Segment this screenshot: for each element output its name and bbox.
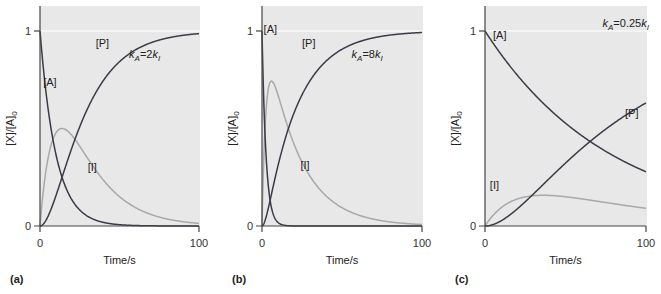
- series-label-P: [P]: [625, 107, 638, 119]
- panel-tag: (c): [455, 273, 469, 285]
- x-tick-label-0: 0: [482, 237, 488, 249]
- series-label-I: [I]: [490, 179, 499, 191]
- x-axis-title: Time/s: [549, 254, 582, 266]
- y-axis-title: [X]/[A]0: [449, 111, 464, 146]
- x-tick-label-100: 100: [637, 237, 655, 249]
- y-tick-label-1: 1: [470, 25, 476, 37]
- panel-c: 100100Time/s[X]/[A]0(c)[A][I][P]kA=0.25k…: [0, 0, 661, 294]
- series-label-A: [A]: [493, 29, 506, 41]
- chart-c: 100100Time/s[X]/[A]0(c)[A][I][P]kA=0.25k…: [0, 0, 661, 294]
- plot-area: [485, 6, 647, 226]
- y-tick-label-0: 0: [470, 220, 476, 232]
